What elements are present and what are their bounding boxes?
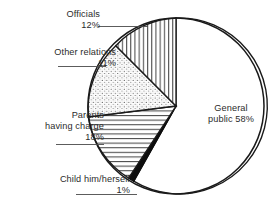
slice-label-child: Child him/herself 1% <box>0 174 130 196</box>
slice-label-parents-name-line2: having charge <box>0 121 104 132</box>
slice-label-officials-name: Officials <box>20 9 100 20</box>
slice-label-other-relations-percent: 11% <box>0 58 116 69</box>
slice-label-child-name: Child him/herself <box>0 174 130 185</box>
slice-label-other-relations: Other relations 11% <box>0 47 116 69</box>
pie-chart-figure: Officials 12% Other relations 11% Parent… <box>0 0 276 209</box>
slice-label-general-public-line2: public 58% <box>196 114 266 125</box>
slice-label-general-public-line1: General <box>196 103 266 114</box>
slice-label-other-relations-name: Other relations <box>0 47 116 58</box>
slice-label-officials: Officials 12% <box>20 9 100 31</box>
slice-label-parents: Parents having charge 18% <box>0 110 104 143</box>
slice-label-child-percent: 1% <box>0 185 130 196</box>
slice-label-general-public: General public 58% <box>196 103 266 125</box>
slice-label-parents-percent: 18% <box>0 132 104 143</box>
slice-label-parents-name-line1: Parents <box>0 110 104 121</box>
slice-label-officials-percent: 12% <box>20 20 100 31</box>
